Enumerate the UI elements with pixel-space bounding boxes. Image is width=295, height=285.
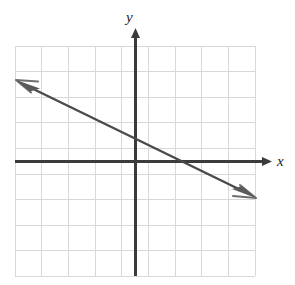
y-axis [131,28,140,276]
y-axis-arrowhead [131,28,140,38]
y-axis-label: y [126,10,133,25]
graph-canvas [0,0,295,285]
x-axis-arrowhead [262,157,272,166]
x-axis-label: x [277,154,284,169]
x-axis [15,157,272,166]
coordinate-plane-figure: y x [0,0,295,285]
